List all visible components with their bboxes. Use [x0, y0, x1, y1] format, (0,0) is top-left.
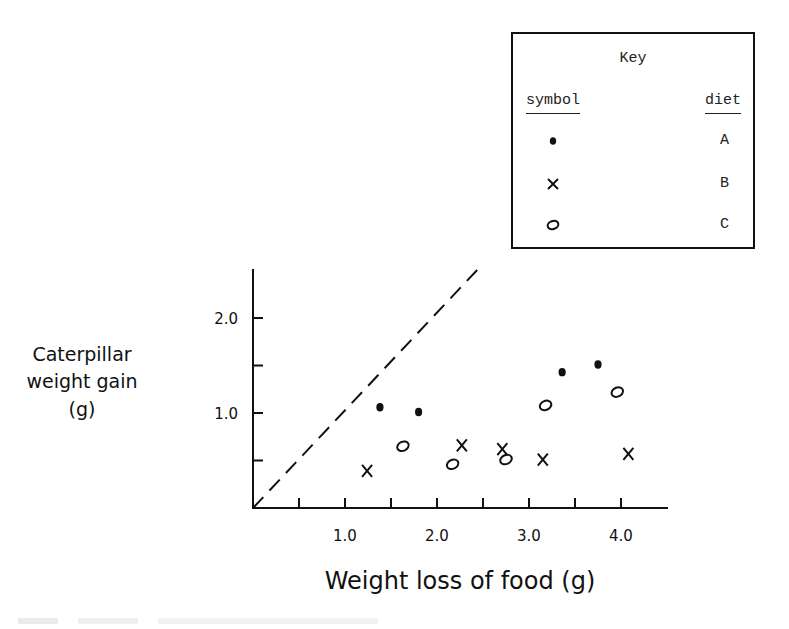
point-diet-c	[499, 453, 514, 466]
x-tick-labels: 1.02.03.04.0	[333, 527, 633, 545]
y-axis-label-line-2: weight gain	[26, 370, 137, 392]
point-diet-a	[415, 408, 422, 416]
y-tick-labels: 1.02.0	[214, 310, 238, 423]
legend-key: Key symbol diet A B C	[511, 32, 755, 249]
x-tick-label: 1.0	[333, 527, 357, 545]
legend-header-symbol: symbol	[526, 93, 580, 114]
point-diet-c	[445, 458, 460, 471]
x-ticks	[299, 498, 621, 508]
legend-diet-label: C	[720, 216, 729, 233]
point-diet-b	[362, 465, 372, 477]
y-tick-label: 2.0	[214, 310, 238, 328]
point-diet-b	[497, 443, 507, 455]
point-diet-b	[623, 448, 633, 460]
legend-diet-label: B	[720, 175, 729, 192]
y-axis-label-line-1: Caterpillar	[32, 343, 131, 365]
data-points	[362, 360, 633, 477]
x-tick-label: 3.0	[517, 527, 541, 545]
point-diet-c	[610, 385, 625, 398]
filled-dot-icon	[543, 131, 563, 151]
point-diet-c	[396, 440, 411, 453]
legend-header-diet: diet	[705, 93, 741, 114]
open-circle-icon	[543, 215, 563, 235]
legend-entry-b: B	[513, 174, 753, 194]
axes	[252, 269, 668, 509]
cross-icon	[543, 174, 563, 194]
legend-entry-c: C	[513, 215, 753, 235]
legend-entry-a: A	[513, 131, 753, 151]
y-tick-label: 1.0	[214, 405, 238, 423]
point-diet-c	[538, 399, 553, 412]
x-tick-label: 2.0	[425, 527, 449, 545]
legend-title: Key	[513, 50, 753, 67]
point-diet-a	[594, 360, 601, 368]
y-axis-label-line-3: (g)	[69, 398, 96, 420]
point-diet-b	[538, 454, 548, 466]
point-diet-b	[457, 439, 467, 451]
point-diet-a	[376, 403, 383, 411]
cut-off-figure-caption	[18, 618, 378, 624]
legend-diet-label: A	[720, 132, 729, 149]
y-ticks	[253, 318, 263, 461]
x-axis-label: Weight loss of food (g)	[325, 567, 596, 595]
point-diet-a	[559, 368, 566, 376]
x-tick-label: 4.0	[609, 527, 633, 545]
